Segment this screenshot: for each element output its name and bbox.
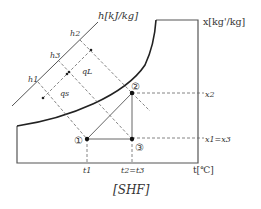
point-3 (130, 137, 134, 141)
diagram-title: [SHF] (113, 183, 150, 197)
humidity-axis-label: x[kg'/kg] (203, 16, 245, 27)
process-1-2 (87, 93, 132, 139)
t2-t3-label: t2=t3 (121, 166, 144, 175)
point-3-label: ③ (135, 142, 144, 153)
h3-label: h3 (50, 51, 60, 60)
h2-line-ext (132, 93, 150, 111)
shf-psychrometric-diagram: h[kJ/kg] x[kg'/kg] t[℃] h2 h3 h1 qL qs ①… (0, 0, 261, 209)
qL-label: qL (82, 67, 92, 76)
point-2-label: ② (131, 81, 140, 92)
h2-label: h2 (70, 29, 80, 38)
enthalpy-axis-label: h[kJ/kg] (98, 10, 138, 21)
qs-label: qs (60, 89, 69, 98)
x1-x3-label: x1=x3 (205, 135, 231, 144)
t1-label: t1 (83, 166, 91, 175)
enthalpy-axis (12, 22, 98, 106)
point-1-label: ① (74, 135, 83, 146)
x2-label: x2 (205, 90, 215, 99)
point-1 (85, 137, 89, 141)
chart-frame (17, 20, 198, 163)
temperature-axis-label: t[℃] (193, 165, 214, 175)
h1-label: h1 (28, 75, 38, 84)
